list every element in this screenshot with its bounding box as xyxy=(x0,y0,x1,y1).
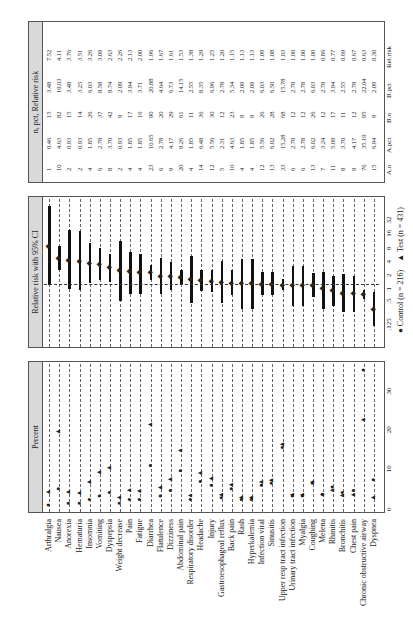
table-cell: 23 xyxy=(147,165,154,172)
control-point: ● xyxy=(360,368,367,372)
category-label: Chest pain xyxy=(349,519,358,629)
table-cell: 2.78 xyxy=(299,138,306,149)
table-cell: 6 xyxy=(157,168,164,171)
rr-point: ◆ xyxy=(65,258,72,263)
row-gridline xyxy=(374,364,375,512)
table-cell: 2.78 xyxy=(319,82,326,93)
table-cell: 1.08 xyxy=(268,50,275,61)
rr-point: ◆ xyxy=(197,278,204,283)
table-cell: 8.58 xyxy=(96,82,103,93)
row-gridline xyxy=(151,364,152,512)
table-cell: 2.55 xyxy=(187,82,194,93)
table-cell: 26 xyxy=(86,112,93,119)
table-cell: 95 xyxy=(360,112,367,119)
table-cell: 28 xyxy=(268,112,275,119)
reference-line-rr1 xyxy=(44,284,379,285)
table-cell: 1.20 xyxy=(218,50,225,61)
rr-point: ◆ xyxy=(319,286,326,291)
rr-point: ◆ xyxy=(339,291,346,296)
table-cell: 12 xyxy=(218,112,225,119)
legend: ● Control (n = 216) ▲ Test (n = 431) xyxy=(396,207,405,333)
table-cell: 12 xyxy=(319,112,326,119)
test-point: ▲ xyxy=(157,484,164,491)
table-cell: 6.02 xyxy=(309,138,316,149)
rr-point: ◆ xyxy=(157,274,164,279)
test-point: ▲ xyxy=(319,491,326,498)
rr-point: ◆ xyxy=(208,279,215,284)
table-cell: 5 xyxy=(218,168,225,171)
table-cell: 4 xyxy=(238,168,245,171)
table-cell: 10.65 xyxy=(147,134,154,149)
table-strip: n, pct, Relative risk xyxy=(29,22,43,182)
table-cell: 1.85 xyxy=(136,138,143,149)
table-cell: 20.88 xyxy=(147,78,154,93)
row-gridline xyxy=(181,364,182,512)
table-cell: 9 xyxy=(350,168,357,171)
table-cell: 3.24 xyxy=(319,138,326,149)
table-cell: 3.48 xyxy=(45,82,52,93)
test-point: ▲ xyxy=(350,491,357,498)
table-cell: 1.00 xyxy=(299,50,306,61)
circle-marker-icon: ● xyxy=(396,328,405,333)
table-cell: 1.29 xyxy=(197,50,204,61)
table-cell: 4.17 xyxy=(350,138,357,149)
category-label: Weight decrease xyxy=(115,519,124,629)
test-point: ▲ xyxy=(187,492,194,499)
row-gridline xyxy=(212,364,213,512)
category-label: Dyspnea xyxy=(369,519,378,629)
table-cell: 11 xyxy=(187,112,194,118)
row-gridline xyxy=(90,364,91,512)
control-point: ● xyxy=(65,501,72,505)
table-cell: 90 xyxy=(147,112,154,119)
category-label: Vomiting xyxy=(95,519,104,629)
table-cell: 4.63 xyxy=(55,138,62,149)
table-cell: 2 xyxy=(65,168,72,171)
table-cell: 15 xyxy=(370,165,377,172)
table-cell: 23 xyxy=(228,112,235,119)
control-point: ● xyxy=(208,483,215,487)
table-cell: 20 xyxy=(157,112,164,119)
table-cell: 9.26 xyxy=(177,138,184,149)
table-cell: 1.85 xyxy=(126,138,133,149)
category-label: Rhinitis xyxy=(328,519,337,629)
rr-point: ◆ xyxy=(45,244,52,249)
table-cell: 0.46 xyxy=(45,138,52,149)
table-cell: 8.35 xyxy=(197,82,204,93)
control-point: ● xyxy=(86,498,93,502)
table-cell: 11 xyxy=(329,165,336,171)
table-cell: 14.15 xyxy=(177,78,184,93)
control-point: ● xyxy=(167,489,174,493)
table-cell: 2.78 xyxy=(96,138,103,149)
test-point: ▲ xyxy=(248,494,255,501)
table-cell: 4.63 xyxy=(228,138,235,149)
row-gridline xyxy=(120,364,121,512)
table-cell: 7 xyxy=(319,168,326,171)
row-gridline xyxy=(262,364,263,512)
table-cell: 1.85 xyxy=(238,138,245,149)
table-cell: 1.09 xyxy=(258,50,265,61)
table-cell: 1.61 xyxy=(167,50,174,61)
ci-axis-tick: 2 xyxy=(385,274,393,278)
table-cell: 20 xyxy=(177,165,184,172)
test-point: ▲ xyxy=(86,479,93,486)
table-cell: 1.67 xyxy=(157,50,164,61)
table-cell: 6.03 xyxy=(86,82,93,93)
test-point: ▲ xyxy=(177,447,184,454)
table-cell: 2.31 xyxy=(218,138,225,149)
category-label: Urinary tract infection xyxy=(288,519,297,629)
table-cell: 6.03 xyxy=(258,82,265,93)
table-cell: 9 xyxy=(238,115,245,118)
test-point: ▲ xyxy=(218,491,225,498)
table-cell: 0.69 xyxy=(339,50,346,61)
table-cell: 2.78 xyxy=(299,82,306,93)
category-label: Chronic obstructive airway xyxy=(359,519,368,629)
category-label: Flatulence xyxy=(156,519,165,629)
table-cell: 15 xyxy=(65,112,72,119)
table-cell: 9 xyxy=(167,168,174,171)
rr-point: ◆ xyxy=(187,277,194,282)
table-cell: 1.15 xyxy=(228,50,235,61)
table-cell: 3.70 xyxy=(106,138,113,149)
ci-panel: Relative risk with 95% CI xyxy=(28,196,385,348)
table-cell: 1.96 xyxy=(147,50,154,61)
table-cell: 1.53 xyxy=(177,50,184,61)
